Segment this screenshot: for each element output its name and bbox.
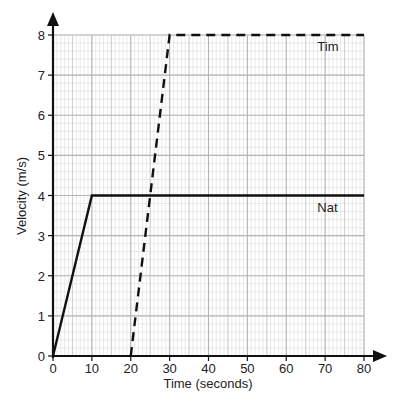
y-tick-label: 1: [38, 309, 45, 324]
x-tick-label: 50: [240, 361, 254, 376]
velocity-time-chart: 01020304050607080012345678 Time (seconds…: [0, 0, 400, 404]
y-tick-label: 3: [38, 229, 45, 244]
x-tick-label: 80: [357, 361, 371, 376]
y-tick-label: 6: [38, 108, 45, 123]
x-tick-label: 10: [85, 361, 99, 376]
x-tick-label: 20: [124, 361, 138, 376]
x-tick-label: 30: [162, 361, 176, 376]
y-tick-label: 2: [38, 269, 45, 284]
series-label-nat: Nat: [317, 200, 338, 215]
series-label-tim: Tim: [317, 39, 338, 54]
y-tick-label: 4: [38, 189, 45, 204]
y-tick-label: 5: [38, 148, 45, 163]
x-tick-label: 40: [201, 361, 215, 376]
x-tick-label: 70: [318, 361, 332, 376]
y-tick-label: 8: [38, 28, 45, 43]
y-tick-label: 0: [38, 349, 45, 364]
x-tick-label: 0: [49, 361, 56, 376]
y-tick-label: 7: [38, 68, 45, 83]
x-axis-label: Time (seconds): [163, 376, 252, 391]
y-axis-label: Velocity (m/s): [14, 157, 29, 235]
series-labels: NatTim: [317, 39, 338, 215]
x-tick-label: 60: [279, 361, 293, 376]
axes: [47, 12, 387, 362]
